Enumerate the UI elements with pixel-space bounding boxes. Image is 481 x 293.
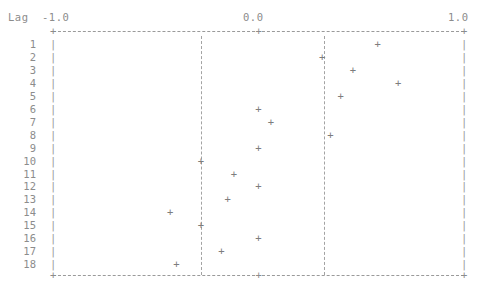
data-point-lag-12: + xyxy=(255,181,261,192)
data-point-lag-7: + xyxy=(268,117,274,128)
row-axis-mark-right: | xyxy=(461,246,467,257)
plot-row: 15||+ xyxy=(0,220,481,231)
row-axis-mark-left: | xyxy=(50,233,56,244)
row-axis-mark-left: | xyxy=(50,156,56,167)
plot-row: 3||+ xyxy=(0,65,481,76)
row-axis-mark-right: | xyxy=(461,130,467,141)
lag-axis-title: Lag xyxy=(8,11,28,23)
row-axis-mark-left: | xyxy=(50,220,56,231)
row-axis-mark-right: | xyxy=(461,104,467,115)
axis-tick-bottom-1: + xyxy=(256,270,262,280)
row-label-lag-17: 17 xyxy=(14,246,36,257)
axis-tick-bottom-2: + xyxy=(461,270,467,280)
data-point-lag-15: + xyxy=(198,220,204,231)
plot-row: 13||+ xyxy=(0,194,481,205)
row-label-lag-18: 18 xyxy=(14,259,36,270)
plot-row: 1||+ xyxy=(0,39,481,50)
data-point-lag-16: + xyxy=(255,233,261,244)
plot-row: 17||+ xyxy=(0,246,481,257)
row-axis-mark-right: | xyxy=(461,259,467,270)
row-label-lag-2: 2 xyxy=(14,52,36,63)
data-point-lag-13: + xyxy=(225,194,231,205)
plot-row: 7||+ xyxy=(0,117,481,128)
row-axis-mark-right: | xyxy=(461,39,467,50)
row-axis-mark-left: | xyxy=(50,52,56,63)
row-label-lag-14: 14 xyxy=(14,207,36,218)
data-point-lag-6: + xyxy=(255,104,261,115)
axis-tick-top-1: + xyxy=(256,26,262,36)
data-point-lag-1: + xyxy=(375,39,381,50)
data-point-lag-14: + xyxy=(167,207,173,218)
axis-tick-top-2: + xyxy=(461,26,467,36)
data-point-lag-11: + xyxy=(231,169,237,180)
row-axis-mark-left: | xyxy=(50,78,56,89)
row-axis-mark-left: | xyxy=(50,259,56,270)
axis-tick-top-0: + xyxy=(50,26,56,36)
row-label-lag-15: 15 xyxy=(14,220,36,231)
data-point-lag-8: + xyxy=(327,130,333,141)
row-label-lag-8: 8 xyxy=(14,130,36,141)
plot-row: 10||+ xyxy=(0,156,481,167)
row-axis-mark-left: | xyxy=(50,117,56,128)
row-axis-mark-right: | xyxy=(461,156,467,167)
row-axis-mark-right: | xyxy=(461,52,467,63)
row-axis-mark-right: | xyxy=(461,78,467,89)
row-axis-mark-right: | xyxy=(461,233,467,244)
row-label-lag-12: 12 xyxy=(14,181,36,192)
x-tick-label-min: -1.0 xyxy=(42,11,69,23)
row-label-lag-3: 3 xyxy=(14,65,36,76)
row-axis-mark-left: | xyxy=(50,65,56,76)
row-axis-mark-right: | xyxy=(461,194,467,205)
row-axis-mark-left: | xyxy=(50,246,56,257)
lag-correlation-plot: Lag -1.0 0.0 1.0 ++++++ 1||+2||+3||+4||+… xyxy=(0,0,481,293)
row-label-lag-10: 10 xyxy=(14,156,36,167)
row-label-lag-11: 11 xyxy=(14,169,36,180)
plot-row: 4||+ xyxy=(0,78,481,89)
row-axis-mark-right: | xyxy=(461,65,467,76)
row-axis-mark-left: | xyxy=(50,130,56,141)
row-axis-mark-left: | xyxy=(50,39,56,50)
data-point-lag-2: + xyxy=(319,52,325,63)
data-point-lag-18: + xyxy=(173,259,179,270)
row-label-lag-6: 6 xyxy=(14,104,36,115)
row-axis-mark-left: | xyxy=(50,181,56,192)
plot-row: 8||+ xyxy=(0,130,481,141)
row-axis-mark-right: | xyxy=(461,169,467,180)
data-point-lag-3: + xyxy=(350,65,356,76)
x-tick-label-max: 1.0 xyxy=(448,11,468,23)
row-axis-mark-right: | xyxy=(461,207,467,218)
row-axis-mark-right: | xyxy=(461,143,467,154)
plot-row: 11||+ xyxy=(0,169,481,180)
data-point-lag-10: + xyxy=(198,156,204,167)
row-axis-mark-left: | xyxy=(50,169,56,180)
row-axis-mark-left: | xyxy=(50,207,56,218)
row-axis-mark-left: | xyxy=(50,91,56,102)
row-label-lag-1: 1 xyxy=(14,39,36,50)
row-label-lag-9: 9 xyxy=(14,143,36,154)
data-point-lag-9: + xyxy=(255,143,261,154)
row-axis-mark-right: | xyxy=(461,220,467,231)
plot-row: 12||+ xyxy=(0,181,481,192)
row-axis-mark-right: | xyxy=(461,181,467,192)
plot-row: 2||+ xyxy=(0,52,481,63)
row-label-lag-5: 5 xyxy=(14,91,36,102)
axis-tick-bottom-0: + xyxy=(50,270,56,280)
x-tick-label-mid: 0.0 xyxy=(243,11,263,23)
row-label-lag-4: 4 xyxy=(14,78,36,89)
plot-row: 9||+ xyxy=(0,143,481,154)
plot-row: 18||+ xyxy=(0,259,481,270)
data-point-lag-5: + xyxy=(338,91,344,102)
row-label-lag-16: 16 xyxy=(14,233,36,244)
plot-row: 6||+ xyxy=(0,104,481,115)
plot-row: 16||+ xyxy=(0,233,481,244)
plot-row: 5||+ xyxy=(0,91,481,102)
data-point-lag-17: + xyxy=(218,246,224,257)
row-label-lag-13: 13 xyxy=(14,194,36,205)
row-axis-mark-left: | xyxy=(50,143,56,154)
plot-row: 14||+ xyxy=(0,207,481,218)
row-axis-mark-right: | xyxy=(461,91,467,102)
row-axis-mark-left: | xyxy=(50,104,56,115)
row-axis-mark-right: | xyxy=(461,117,467,128)
row-label-lag-7: 7 xyxy=(14,117,36,128)
row-axis-mark-left: | xyxy=(50,194,56,205)
